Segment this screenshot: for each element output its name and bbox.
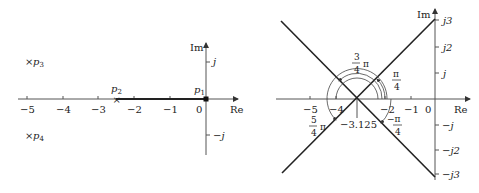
left-im-label: Im xyxy=(190,42,204,53)
right-y-tick-j2: j2 xyxy=(441,42,452,53)
right-re-label: Re xyxy=(454,104,468,115)
left-y-tick-negj: −j xyxy=(213,130,224,141)
svg-text:π: π xyxy=(363,59,369,69)
right-y-tick-negj3: −j3 xyxy=(442,169,460,180)
angle-arc-inner xyxy=(336,78,378,99)
left-x-tick-neg4: −4 xyxy=(56,104,71,115)
svg-text:3: 3 xyxy=(354,52,360,62)
right-y-tick-j: j xyxy=(441,68,446,79)
pole-p1-label: p1 xyxy=(194,84,205,97)
angle-label-neg-pi-over-4: −π 4 xyxy=(387,114,402,137)
angle-label-5pi-over-4: 5 4 π xyxy=(309,115,326,138)
right-asymptote-plot: −5 −4 −2 −1 0 j3 j2 j −j −j2 −j3 Im Re −… xyxy=(276,9,470,180)
angle-label-pi-over-4: π 4 xyxy=(392,69,401,92)
angle-label-3pi-over-4: 3 4 π xyxy=(352,52,369,75)
asymptote-line-ascending xyxy=(282,19,435,173)
svg-text:π: π xyxy=(320,122,326,132)
centroid-label: −3.125 xyxy=(340,119,377,130)
right-x-tick-neg5: −5 xyxy=(303,104,318,115)
pole-p4-label: p4 xyxy=(33,130,44,143)
svg-text:4: 4 xyxy=(394,82,400,92)
left-pole-plot: −5 −4 −3 −2 −1 0 j −j Im Re p1 × p2 × p3… xyxy=(18,42,244,155)
left-x-tick-neg3: −3 xyxy=(91,104,106,115)
pole-p1-marker xyxy=(204,97,209,102)
left-re-label: Re xyxy=(230,104,244,115)
right-x-tick-neg1: −1 xyxy=(404,104,419,115)
left-x-tick-neg1: −1 xyxy=(163,104,178,115)
left-x-tick-0: 0 xyxy=(196,104,202,115)
right-x-tick-0: 0 xyxy=(425,104,431,115)
left-x-tick-neg2: −2 xyxy=(127,104,142,115)
svg-text:−π: −π xyxy=(387,114,401,124)
right-y-tick-j3: j3 xyxy=(441,15,452,26)
right-y-tick-negj: −j xyxy=(442,120,453,131)
right-y-tick-negj2: −j2 xyxy=(442,145,460,156)
svg-text:4: 4 xyxy=(395,127,401,137)
pole-p3-label: p3 xyxy=(33,56,44,69)
svg-text:5: 5 xyxy=(311,115,317,125)
right-im-label: Im xyxy=(417,9,431,20)
svg-text:π: π xyxy=(393,69,399,79)
svg-text:4: 4 xyxy=(354,65,360,75)
left-y-tick-j: j xyxy=(211,56,216,67)
root-locus-figure: −5 −4 −3 −2 −1 0 j −j Im Re p1 × p2 × p3… xyxy=(0,0,479,193)
svg-text:4: 4 xyxy=(311,128,317,138)
left-x-tick-neg5: −5 xyxy=(20,104,35,115)
